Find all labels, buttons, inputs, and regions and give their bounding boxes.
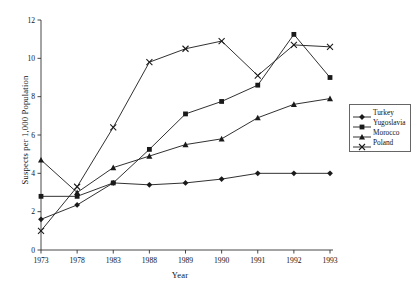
chart-container: 0246810121973197819831988198919901991199… — [0, 0, 418, 290]
y-axis-tick-label: 4 — [31, 169, 35, 178]
data-point — [183, 112, 188, 117]
data-point — [255, 115, 261, 121]
data-point — [219, 176, 225, 182]
data-point — [328, 75, 333, 80]
data-point — [74, 202, 80, 208]
legend-item-morocco[interactable]: Morocco — [352, 128, 407, 138]
legend-item-turkey[interactable]: Turkey — [352, 108, 407, 118]
series-poland — [38, 38, 333, 234]
x-axis-tick-label: 1983 — [106, 256, 121, 265]
x-axis-tick-label: 1973 — [33, 256, 48, 265]
data-point — [255, 170, 261, 176]
legend-marker-triangle-icon — [352, 128, 372, 138]
data-point — [327, 170, 333, 176]
data-point — [38, 216, 44, 222]
x-axis-tick-label: 1978 — [70, 256, 85, 265]
data-point — [255, 83, 260, 88]
legend-item-poland[interactable]: Poland — [352, 138, 407, 148]
y-axis-title: Suspects per 1,000 Population — [20, 35, 30, 225]
y-axis-tick-label: 2 — [31, 207, 35, 216]
data-point — [327, 96, 333, 102]
legend-item-label: Poland — [372, 138, 393, 148]
y-axis-tick-label: 0 — [31, 246, 35, 255]
y-axis-tick-label: 6 — [31, 131, 35, 140]
x-axis-tick-label: 1992 — [286, 256, 301, 265]
data-point — [183, 180, 189, 186]
legend-item-label: Turkey — [372, 108, 394, 118]
chart-legend: TurkeyYugoslaviaMoroccoPoland — [349, 104, 411, 152]
legend-marker-cross-icon — [352, 138, 372, 148]
data-point — [291, 170, 297, 176]
y-axis-tick-label: 12 — [27, 16, 35, 25]
legend-item-yugoslavia[interactable]: Yugoslavia — [352, 118, 407, 128]
data-point — [146, 182, 152, 188]
legend-item-label: Morocco — [372, 128, 399, 138]
series-line — [41, 41, 330, 231]
data-point — [39, 194, 44, 199]
data-point — [219, 136, 225, 142]
legend-item-label: Yugoslavia — [372, 118, 405, 128]
x-axis-title: Year — [0, 270, 360, 280]
x-axis-tick-label: 1990 — [214, 256, 229, 265]
x-axis-tick-label: 1993 — [322, 256, 337, 265]
data-point — [111, 181, 116, 186]
data-point — [291, 32, 296, 37]
data-point — [147, 147, 152, 152]
x-axis-tick-label: 1991 — [250, 256, 265, 265]
y-axis-tick-label: 8 — [31, 92, 35, 101]
data-point — [38, 157, 44, 163]
legend-marker-diamond-icon — [352, 108, 372, 118]
legend-marker-square-icon — [352, 118, 372, 128]
x-axis-tick-label: 1988 — [142, 256, 157, 265]
data-point — [219, 99, 224, 104]
x-axis-tick-label: 1989 — [178, 256, 193, 265]
